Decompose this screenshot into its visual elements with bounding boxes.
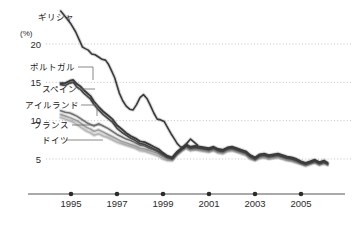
- series-label-spain: スペイン: [42, 84, 77, 94]
- x-tick-label-1995: 1995: [60, 198, 81, 209]
- x-tick-label-2003: 2003: [244, 198, 265, 209]
- x-tick-dot-1997: [115, 192, 120, 197]
- y-tick-label-20: 20: [30, 39, 41, 50]
- line-chart: 2015105 199519971999200120032005 ギリシャポルト…: [0, 0, 355, 232]
- x-tick-dot-1995: [69, 192, 74, 197]
- x-tick-dot-2003: [253, 192, 258, 197]
- x-tick-dot-2005: [299, 192, 304, 197]
- series-label-germany: ドイツ: [42, 135, 69, 145]
- y-tick-label-5: 5: [36, 154, 41, 165]
- y-tick-label-15: 15: [30, 77, 41, 88]
- x-tick-label-1999: 1999: [152, 198, 173, 209]
- series-label-france: フランス: [33, 120, 69, 130]
- x-tick-label-2005: 2005: [290, 198, 311, 209]
- chart-canvas: 2015105 199519971999200120032005 ギリシャポルト…: [0, 0, 355, 232]
- x-tick-label-2001: 2001: [198, 198, 219, 209]
- x-tick-dot-2001: [207, 192, 212, 197]
- x-tick-dot-1999: [161, 192, 166, 197]
- x-tick-label-1997: 1997: [106, 198, 127, 209]
- y-axis-unit-label: (%): [20, 29, 33, 38]
- series-label-greece: ギリシャ: [38, 12, 74, 22]
- series-label-ireland: アイルランド: [25, 100, 79, 110]
- series-label-portugal: ポルトガル: [30, 62, 75, 72]
